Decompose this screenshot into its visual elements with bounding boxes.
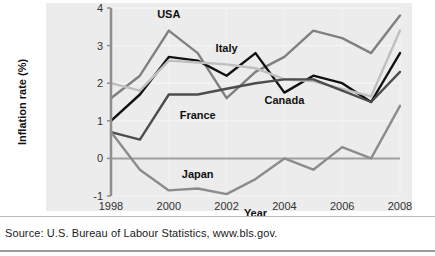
series-label-usa: USA (157, 8, 180, 20)
series-label-italy: Italy (216, 42, 239, 54)
divider-top (0, 216, 435, 217)
y-axis-title: Inflation rate (%) (16, 59, 28, 146)
series-label-japan: Japan (182, 168, 214, 180)
series-line-canada (111, 31, 400, 97)
series-line-italy (111, 53, 400, 121)
x-tick-2002: 2002 (214, 200, 238, 212)
source-note: Source: U.S. Bureau of Labour Statistics… (5, 227, 277, 239)
axis-lines (107, 8, 111, 196)
chart-figure: 199820002002200420062008 -101234 USAItal… (0, 0, 435, 256)
y-tick-0: 0 (97, 152, 103, 164)
series-label-canada: Canada (265, 94, 306, 106)
x-tick-2008: 2008 (388, 200, 412, 212)
x-tick-2006: 2006 (330, 200, 354, 212)
x-tick-2000: 2000 (157, 200, 181, 212)
series-label-france: France (180, 109, 216, 121)
x-tick-2004: 2004 (272, 200, 296, 212)
divider-bottom (0, 250, 435, 252)
y-tick-2: 2 (97, 77, 103, 89)
y-axis-tick-labels: -101234 (93, 2, 103, 202)
y-tick-1: 1 (97, 115, 103, 127)
y-tick-3: 3 (97, 40, 103, 52)
series-line-france (111, 72, 400, 140)
series-lines (111, 16, 400, 195)
y-tick-4: 4 (97, 2, 103, 14)
gridlines (111, 8, 400, 196)
line-chart: 199820002002200420062008 -101234 USAItal… (0, 0, 435, 222)
y-tick--1: -1 (93, 190, 103, 202)
x-axis-title: Year (244, 207, 268, 219)
series-line-usa (111, 16, 400, 99)
